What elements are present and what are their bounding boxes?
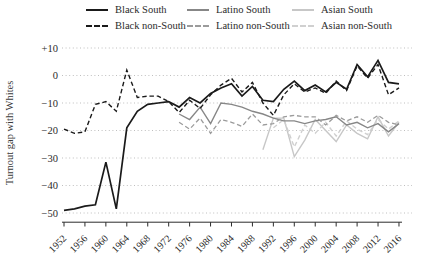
x-tick-label: 1988 [235, 233, 257, 255]
legend-swatch-solid-line-icon [187, 9, 209, 11]
legend-item-asian-non-south: Asian non-South [292, 20, 392, 31]
legend-label: Asian non-South [321, 20, 392, 31]
x-tick-label: 1976 [172, 233, 194, 255]
legend-swatch-solid-line-icon [292, 9, 314, 11]
x-tick-label: 2016 [381, 233, 403, 255]
turnout-gap-figure: +100−10−20−30−40−50195219561960196419681… [0, 0, 429, 261]
legend-label: Black South [115, 4, 167, 15]
x-tick-label: 1964 [109, 233, 131, 255]
y-axis-title: Turnout gap with Whites [4, 81, 15, 186]
x-tick-label: 1984 [214, 233, 236, 255]
y-tick-label: −40 [42, 180, 58, 191]
x-tick-label: 2008 [340, 233, 362, 255]
legend-item-black-south: Black South [86, 4, 187, 15]
x-tick-label: 1996 [277, 233, 299, 255]
legend-item-black-non-south: Black non-South [86, 20, 187, 31]
x-tick-label: 2000 [298, 233, 320, 255]
legend-item-asian-south: Asian South [292, 4, 392, 15]
y-tick-label: −10 [42, 98, 58, 109]
legend-swatch-dashed-line-icon [292, 25, 314, 27]
legend-swatch-dashed-line-icon [86, 25, 108, 27]
y-tick-label: +10 [42, 43, 58, 54]
legend-label: Latino South [216, 4, 271, 15]
series-line-asian-non-south [273, 120, 399, 148]
x-tick-label: 1992 [256, 233, 278, 255]
series-line-asian-south [263, 117, 399, 157]
legend-swatch-solid-line-icon [86, 9, 108, 11]
legend-item-latino-non-south: Latino non-South [187, 20, 292, 31]
chart-canvas: +100−10−20−30−40−50195219561960196419681… [0, 0, 429, 261]
x-tick-label: 1968 [130, 233, 152, 255]
series-line-black-south [64, 60, 399, 210]
x-tick-label: 1972 [151, 233, 173, 255]
legend-item-latino-south: Latino South [187, 4, 292, 15]
x-tick-label: 2012 [361, 233, 383, 255]
y-tick-label: 0 [53, 70, 58, 81]
legend-swatch-dashed-line-icon [187, 25, 209, 27]
x-tick-label: 2004 [319, 233, 341, 255]
chart-legend: Black South Latino South Asian South Bla… [86, 4, 392, 31]
legend-label: Latino non-South [216, 20, 290, 31]
series-line-latino-south [179, 103, 399, 132]
legend-label: Asian South [321, 4, 373, 15]
y-tick-label: −30 [42, 153, 58, 164]
y-tick-label: −50 [42, 208, 58, 219]
legend-label: Black non-South [115, 20, 186, 31]
y-tick-label: −20 [42, 125, 58, 136]
x-tick-label: 1952 [46, 233, 68, 255]
x-tick-label: 1980 [193, 233, 215, 255]
x-tick-label: 1960 [88, 233, 110, 255]
x-tick-label: 1956 [67, 233, 89, 255]
